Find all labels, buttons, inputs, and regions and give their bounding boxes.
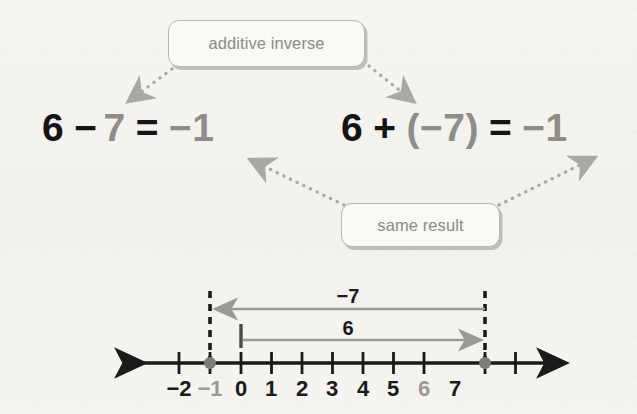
jump-label-six: 6 <box>318 317 378 340</box>
number-line-graphic <box>0 0 637 414</box>
point-marker-six <box>479 357 491 369</box>
jump-label-minus-seven: −7 <box>318 285 378 308</box>
diagram-canvas: additive inverse same result 6 − 7 = −1 … <box>0 0 637 414</box>
point-marker-minus-one <box>204 357 216 369</box>
tick-label-7: 7 <box>435 376 475 402</box>
